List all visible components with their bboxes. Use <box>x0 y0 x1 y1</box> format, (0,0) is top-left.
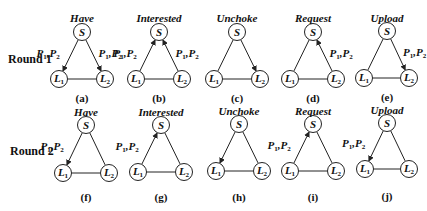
node-label-l1: L1 <box>359 72 369 85</box>
node-label-s: S <box>384 118 390 129</box>
panel-title: Have <box>74 106 98 118</box>
panel-caption: (f) <box>81 191 92 203</box>
panel-title: Have <box>70 12 94 24</box>
node-label-s: S <box>310 27 316 38</box>
edge-label-p1-p2: P1,P2 <box>330 48 353 61</box>
node-label-l1: L1 <box>58 167 68 180</box>
node-label-l2: L2 <box>257 165 267 178</box>
panel-caption: (c) <box>231 92 243 104</box>
edge-S-L1 <box>63 40 78 71</box>
panel-caption: (j) <box>382 190 393 202</box>
edge-label-p1-p2: P1,P2 <box>37 48 60 61</box>
node-label-l1: L1 <box>285 165 295 178</box>
panel-title: Request <box>295 105 331 117</box>
node-label-l1: L1 <box>209 73 219 86</box>
panel-caption: (h) <box>232 191 245 203</box>
node-label-l2: L2 <box>177 73 187 86</box>
panel-caption: (g) <box>155 191 168 203</box>
node-label-l2: L2 <box>404 72 414 85</box>
panel-title: Unchoke <box>219 105 260 117</box>
edge-S-L2 <box>241 40 256 71</box>
edge-S-L1 <box>369 131 383 161</box>
edge-label-p1-p2: P1,P2 <box>342 138 365 151</box>
node-label-l2: L2 <box>331 165 341 178</box>
node-label-l1: L1 <box>360 163 370 176</box>
node-label-s: S <box>83 120 89 131</box>
edge-S-L1 <box>220 132 235 163</box>
panel-title: Interested <box>138 106 183 118</box>
edge-label-p1-p2: P1,P2 <box>116 141 139 154</box>
panel-caption: (b) <box>152 92 165 104</box>
edge-label-p1-p2: P1,P2 <box>114 48 137 61</box>
edge-S-L2 <box>391 131 405 161</box>
protocol-diagram: Round 1P1,P2P1,P2SL1L2Have(a)P1,P2P1,P2S… <box>0 0 427 211</box>
edge-label-p1-p2: P1,P2 <box>176 48 199 61</box>
edge-label-p1-p2: P1,P2 <box>268 140 291 153</box>
edge-S-L2 <box>317 132 332 163</box>
panel-title: Upload <box>371 104 404 116</box>
edge-label-p1-p2: P1,P2 <box>41 141 64 154</box>
node-label-l1: L1 <box>54 73 64 86</box>
node-label-l1: L1 <box>133 166 143 179</box>
node-label-l2: L2 <box>100 73 110 86</box>
node-label-s: S <box>158 120 164 131</box>
node-label-l2: L2 <box>255 73 265 86</box>
node-label-l1: L1 <box>285 73 295 86</box>
edge-L1-S <box>140 40 155 71</box>
node-label-s: S <box>310 119 316 130</box>
edge-S-L1 <box>294 40 309 71</box>
panel-caption: (a) <box>76 92 89 104</box>
node-label-s: S <box>79 27 85 38</box>
node-label-l2: L2 <box>179 166 189 179</box>
node-label-l1: L1 <box>211 165 221 178</box>
node-label-l2: L2 <box>331 73 341 86</box>
node-label-s: S <box>236 119 242 130</box>
edge-S-L2 <box>90 133 105 165</box>
node-label-l1: L1 <box>131 73 141 86</box>
edge-S-L2 <box>243 132 258 163</box>
panel-title: Interested <box>136 12 181 24</box>
panel-caption: (d) <box>306 92 319 104</box>
edge-S-L1 <box>368 39 383 70</box>
edge-S-L1 <box>67 133 82 165</box>
panel-title: Unchoke <box>217 12 258 24</box>
edge-S-L1 <box>218 40 233 71</box>
panel-title: Upload <box>371 12 404 24</box>
edge-L1-S <box>294 132 309 163</box>
panel-title: Request <box>295 12 331 24</box>
panel-caption: (e) <box>381 91 393 103</box>
edge-label-p1-p2: P1,P2 <box>403 47 426 60</box>
node-label-s: S <box>234 27 240 38</box>
node-label-l2: L2 <box>104 167 114 180</box>
edge-S-L2 <box>165 133 180 164</box>
node-label-l2: L2 <box>404 163 414 176</box>
node-label-s: S <box>156 27 162 38</box>
panel-caption: (i) <box>308 191 318 203</box>
edge-L1-S <box>142 133 157 164</box>
node-label-s: S <box>384 26 390 37</box>
